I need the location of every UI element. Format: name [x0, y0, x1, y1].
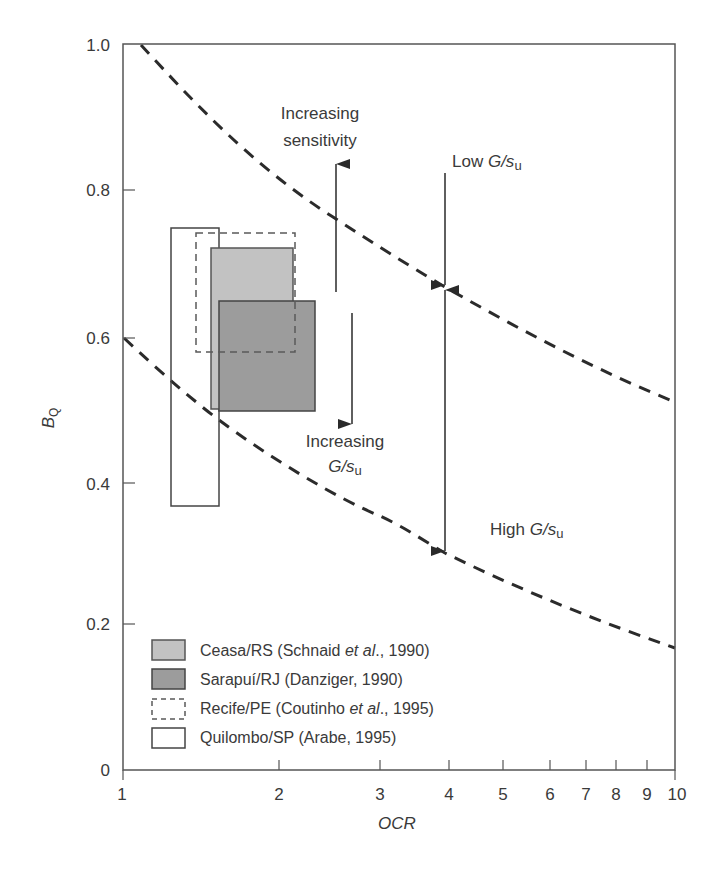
x-tick-4: 4: [444, 785, 453, 804]
x-tick-6: 6: [545, 785, 554, 804]
bound-curves: [124, 45, 675, 648]
x-tick-10: 10: [668, 785, 687, 804]
x-tick-5: 5: [498, 785, 507, 804]
x-tick-8: 8: [611, 785, 620, 804]
label-increasing-gsu-2: G/su: [328, 457, 362, 478]
y-tick-04: 0.4: [86, 475, 110, 494]
label-low-gsu: Low G/su: [452, 152, 522, 173]
x-tick-7: 7: [581, 785, 590, 804]
y-axis: 0 0.2 0.4 0.6 0.8 1.0 BQ: [39, 36, 135, 780]
x-tick-2: 2: [274, 785, 283, 804]
label-high-gsu: High G/su: [490, 520, 563, 541]
legend-label-recife: Recife/PE (Coutinho et al., 1995): [200, 700, 434, 717]
low-italic: G/s: [488, 152, 515, 171]
label-increasing-sensitivity-1: Increasing: [281, 104, 359, 123]
legend: Ceasa/RS (Schnaid et al., 1990) Sarapuí/…: [152, 640, 434, 748]
legend-swatch-ceasa: [152, 640, 185, 660]
data-regions: [171, 228, 315, 506]
high-italic: G/s: [530, 520, 557, 539]
y-tick-02: 0.2: [86, 615, 110, 634]
legend-swatch-sarapui: [152, 669, 185, 689]
legend-label-ceasa: Ceasa/RS (Schnaid et al., 1990): [200, 642, 429, 659]
x-tick-1: 1: [117, 785, 126, 804]
y-tick-0: 0: [101, 761, 110, 780]
high-subscript: u: [556, 526, 563, 541]
high-text: High: [490, 520, 530, 539]
legend-swatch-recife: [152, 699, 185, 719]
lower-bound-curve: [124, 338, 675, 648]
legend-swatch-quilombo: [152, 728, 185, 748]
label-increasing-sensitivity-2: sensitivity: [283, 131, 357, 150]
region-sarapui: [219, 301, 315, 411]
low-subscript: u: [514, 158, 521, 173]
low-text: Low: [452, 152, 488, 171]
chart-svg: Increasing sensitivity Increasing G/su L…: [0, 0, 722, 877]
x-axis: 1 2 3 4 5 6 7 8 9 10 OCR: [117, 760, 686, 833]
x-axis-label: OCR: [378, 814, 416, 833]
legend-label-sarapui: Sarapuí/RJ (Danziger, 1990): [200, 671, 403, 688]
gsu-italic: G/s: [328, 457, 355, 476]
x-tick-9: 9: [642, 785, 651, 804]
annotation-text: Increasing sensitivity Increasing G/su L…: [281, 104, 564, 541]
y-tick-10: 1.0: [86, 36, 110, 55]
plot-frame: [123, 44, 675, 770]
label-increasing-gsu-1: Increasing: [306, 432, 384, 451]
gsu-subscript: u: [355, 463, 362, 478]
y-tick-06: 0.6: [86, 329, 110, 348]
annotation-arrows: [336, 164, 445, 551]
y-tick-08: 0.8: [86, 181, 110, 200]
legend-label-quilombo: Quilombo/SP (Arabe, 1995): [200, 729, 396, 746]
y-axis-label: BQ: [39, 408, 61, 429]
x-tick-3: 3: [375, 785, 384, 804]
